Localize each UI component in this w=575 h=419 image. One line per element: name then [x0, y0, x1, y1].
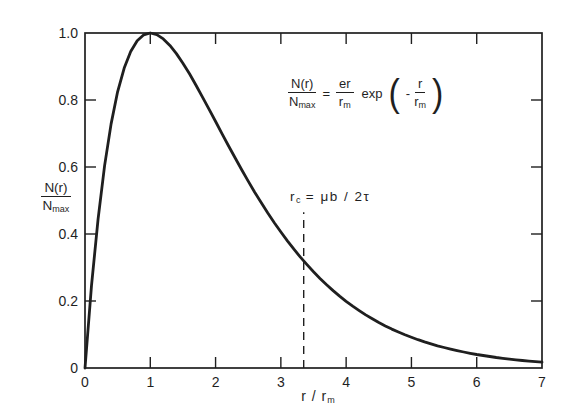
y-tick-label: 0.4	[0, 225, 78, 243]
equation-annotation: N(r) Nmax = er rm exp ( - r rm )	[288, 76, 444, 110]
equation-open-paren: (	[388, 74, 401, 112]
x-tick-label: 2	[202, 373, 230, 391]
x-tick-label: 6	[463, 373, 491, 391]
equation-exp: exp	[359, 86, 383, 101]
y-tick-label: 0.6	[0, 158, 78, 176]
y-axis-label-numerator: N(r)	[41, 180, 70, 197]
rc-annotation: rc = μb / 2τ	[290, 189, 370, 205]
y-tick-label: 1.0	[0, 24, 78, 42]
equation-equals: =	[321, 86, 331, 101]
x-tick-label: 1	[136, 373, 164, 391]
equation-exp-argument: - r rm	[406, 76, 426, 110]
y-axis-label: N(r) Nmax	[28, 180, 84, 214]
y-tick-label: 0	[0, 359, 78, 377]
x-tick-label: 5	[397, 373, 425, 391]
plot-canvas	[0, 0, 575, 419]
x-axis-label: r / rm	[293, 388, 343, 405]
y-axis-label-denominator: Nmax	[43, 197, 70, 214]
figure: 00.20.40.60.81.0 01234567 N(r) Nmax r / …	[0, 0, 575, 419]
x-tick-label: 0	[71, 373, 99, 391]
equation-coefficient-fraction: er rm	[336, 76, 354, 110]
equation-lhs-fraction: N(r) Nmax	[288, 76, 316, 110]
x-tick-label: 7	[528, 373, 556, 391]
equation-close-paren: )	[431, 74, 444, 112]
y-tick-label: 0.2	[0, 292, 78, 310]
y-tick-label: 0.8	[0, 91, 78, 109]
x-tick-label: 3	[267, 373, 295, 391]
